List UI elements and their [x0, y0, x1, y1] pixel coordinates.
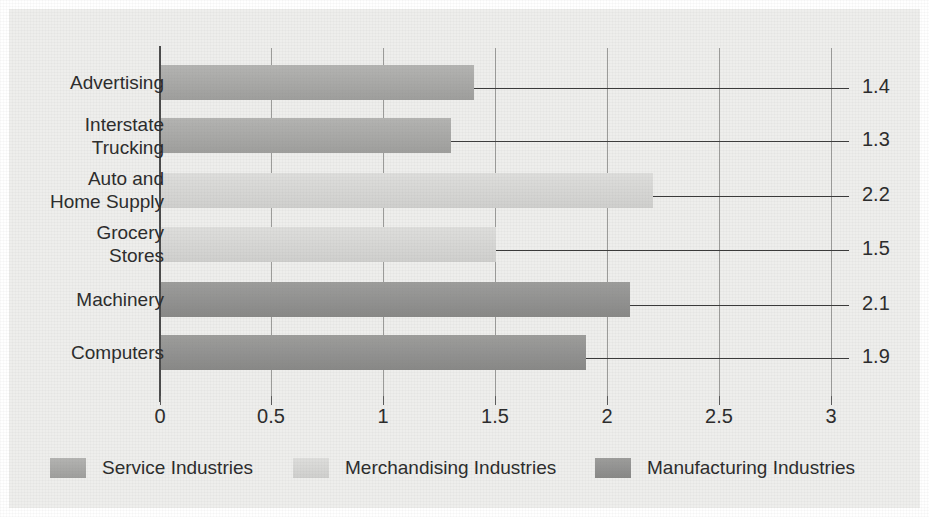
x-tick-label-2.5: 2.5 [705, 405, 733, 428]
x-tick-label-3: 3 [825, 405, 836, 428]
plot-area: 0 0.5 1 1.5 2 2.5 3 Advertising Intersta… [0, 0, 929, 517]
category-label-auto-and-home-supply: Auto and Home Supply [50, 167, 164, 213]
figure-border-top [0, 0, 929, 9]
leader-line-advertising [474, 88, 849, 89]
leader-line-machinery [630, 305, 849, 306]
value-label-machinery: 2.1 [862, 292, 890, 315]
legend-label-service-industries: Service Industries [102, 457, 253, 479]
figure-border-bottom [0, 508, 929, 517]
legend-item-merchandising-industries[interactable]: Merchandising Industries [293, 451, 556, 485]
leader-line-auto-and-home-supply [653, 196, 849, 197]
x-tick-0 [160, 396, 161, 405]
bar-auto-and-home-supply[interactable] [160, 173, 653, 208]
x-tick-0.5 [271, 396, 272, 405]
gridline-2.5 [719, 48, 720, 400]
leader-line-grocery-stores [496, 250, 849, 251]
chart-figure: 0 0.5 1 1.5 2 2.5 3 Advertising Intersta… [0, 0, 929, 517]
x-tick-label-2: 2 [601, 405, 612, 428]
legend-label-merchandising-industries: Merchandising Industries [345, 457, 556, 479]
category-label-grocery-stores: Grocery Stores [96, 221, 164, 267]
legend-swatch-merchandising-industries [293, 458, 329, 478]
figure-border-right [920, 0, 929, 517]
bar-advertising[interactable] [160, 65, 474, 100]
x-tick-2.5 [719, 396, 720, 405]
x-tick-1.5 [495, 396, 496, 405]
legend-label-manufacturing-industries: Manufacturing Industries [647, 457, 855, 479]
legend-item-service-industries[interactable]: Service Industries [50, 451, 253, 485]
x-tick-3 [831, 396, 832, 405]
value-label-grocery-stores: 1.5 [862, 237, 890, 260]
gridline-3 [831, 48, 832, 400]
category-label-advertising: Advertising [70, 71, 164, 94]
bar-grocery-stores[interactable] [160, 227, 496, 262]
value-label-auto-and-home-supply: 2.2 [862, 183, 890, 206]
value-label-advertising: 1.4 [862, 75, 890, 98]
x-tick-label-0.5: 0.5 [257, 405, 285, 428]
x-tick-1 [383, 396, 384, 405]
x-tick-label-1: 1 [377, 405, 388, 428]
legend-swatch-service-industries [50, 458, 86, 478]
leader-line-computers [586, 358, 849, 359]
x-tick-label-1.5: 1.5 [481, 405, 509, 428]
bar-machinery[interactable] [160, 282, 630, 317]
legend-item-manufacturing-industries[interactable]: Manufacturing Industries [595, 451, 855, 485]
value-label-interstate-trucking: 1.3 [862, 128, 890, 151]
bar-interstate-trucking[interactable] [160, 118, 451, 153]
value-label-computers: 1.9 [862, 345, 890, 368]
category-label-computers: Computers [71, 341, 164, 364]
legend-swatch-manufacturing-industries [595, 458, 631, 478]
bar-computers[interactable] [160, 335, 586, 370]
category-label-interstate-trucking: Interstate Trucking [85, 113, 164, 159]
gridline-2 [607, 48, 608, 400]
x-tick-2 [607, 396, 608, 405]
figure-border-left [0, 0, 9, 517]
leader-line-interstate-trucking [451, 141, 849, 142]
category-label-machinery: Machinery [76, 288, 164, 311]
chart-legend: Service Industries Merchandising Industr… [0, 451, 929, 485]
x-tick-label-0: 0 [154, 405, 165, 428]
